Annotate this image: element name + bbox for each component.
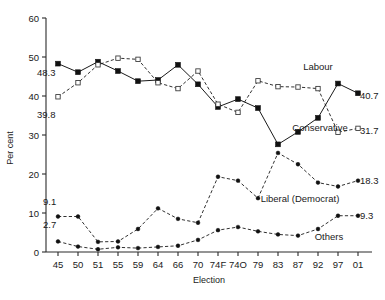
data-point [256,229,260,233]
data-point [76,81,80,85]
data-point [76,215,80,219]
start-value-conservative: 39.8 [37,109,56,120]
y-tick-label: 20 [28,169,39,180]
data-point [256,196,260,200]
x-tick-label: 74O [229,259,247,270]
series-annotation-others: Others [315,231,344,242]
chart-canvas: 0102030405060 Per cent 45505155596466707… [0,0,385,300]
y-tick-label: 40 [28,91,39,102]
data-point [216,175,220,179]
data-point [116,240,120,244]
x-tick-label: 70 [193,259,204,270]
data-point [76,245,80,249]
data-point [176,62,181,67]
x-tick-label: 55 [113,259,124,270]
series-layer [56,56,361,251]
x-axis: 455051555964667074F74O798387929701 Elect… [46,252,372,285]
x-tick-label: 92 [313,259,324,270]
data-point [56,95,60,99]
data-point [256,106,261,111]
data-point [336,81,341,86]
data-point [116,245,120,249]
data-point [296,234,300,238]
data-point [256,79,260,83]
data-point [156,81,160,85]
x-tick-label: 79 [253,259,264,270]
series-path [58,216,358,250]
data-point [236,225,240,229]
data-point [296,162,300,166]
start-value-others: 2.7 [43,219,56,230]
y-axis-title: Per cent [5,131,15,165]
data-point [236,179,240,183]
end-value-others: 9.3 [360,210,373,221]
data-point [176,217,180,221]
data-point [76,70,81,75]
data-point [236,97,241,102]
x-axis-title: Election [193,275,225,285]
data-point [56,240,60,244]
start-value-labour: 48.3 [37,67,56,78]
x-tick-label: 64 [153,259,164,270]
series-annotation-conservative: Conservative [292,122,347,133]
x-tick-label: 59 [133,259,144,270]
y-axis: 0102030405060 Per cent [5,13,46,258]
data-point [136,79,141,84]
data-point [56,215,60,219]
data-point [136,57,140,61]
x-tick-label: 97 [333,259,344,270]
data-point [276,151,280,155]
data-point [196,221,200,225]
end-value-liberal: 18.3 [360,175,379,186]
data-point [196,69,200,73]
x-tick-label: 51 [93,259,104,270]
data-point [276,142,281,147]
x-tick-label: 66 [173,259,184,270]
data-point [276,84,280,88]
x-axis-ticks: 455051555964667074F74O798387929701 [53,252,364,270]
data-point [176,244,180,248]
start-value-liberal: 9.1 [43,196,56,207]
x-tick-label: 83 [273,259,284,270]
data-point [196,82,201,87]
data-point [196,238,200,242]
series-labour [56,59,361,146]
x-tick-label: 50 [73,259,84,270]
series-annotation-labour: Labour [303,61,333,72]
data-point [316,115,321,120]
y-tick-label: 30 [28,130,39,141]
y-tick-label: 60 [28,13,39,24]
x-tick-label: 45 [53,259,64,270]
y-tick-label: 50 [28,52,39,63]
data-point [96,63,100,67]
election-share-line-chart: 0102030405060 Per cent 45505155596466707… [0,0,385,300]
data-point [216,228,220,232]
data-point [296,85,300,89]
x-tick-label: 74F [210,259,227,270]
data-point [316,181,320,185]
data-point [96,247,100,251]
data-point [56,61,61,66]
data-point [336,214,340,218]
end-value-labour: 40.7 [360,90,379,101]
data-point [116,69,121,74]
data-point [156,245,160,249]
data-point [236,110,240,114]
end-value-conservative: 31.7 [360,125,379,136]
data-point [136,246,140,250]
data-point [276,233,280,237]
y-tick-label: 0 [34,247,39,258]
data-point [336,185,340,189]
data-point [116,56,120,60]
x-tick-label: 01 [353,259,364,270]
data-point [176,86,180,90]
x-tick-label: 87 [293,259,304,270]
data-point [96,240,100,244]
data-point [136,227,140,231]
data-point [216,102,220,106]
series-annotation-liberal: Liberal (Democrat) [261,193,340,204]
data-point [156,206,160,210]
data-point [316,86,320,90]
y-tick-label: 10 [28,208,39,219]
